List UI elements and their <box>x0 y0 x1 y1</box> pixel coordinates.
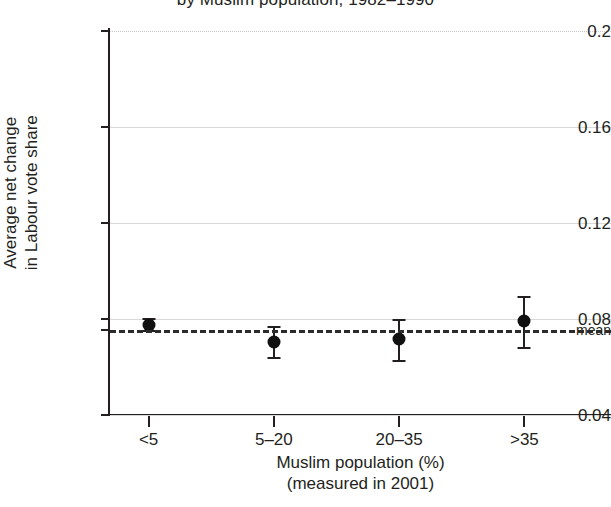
y-tick-label: 0.12 <box>525 215 611 232</box>
chart-figure: by Muslim population, 1982–1990 0.20.160… <box>0 0 611 507</box>
y-axis-title-line2: in Labour vote share <box>22 33 43 353</box>
y-tick-mark <box>101 414 110 416</box>
mean-reference-line <box>110 330 611 333</box>
y-tick-mark <box>101 318 110 320</box>
x-tick-label: 20–35 <box>339 430 459 450</box>
chart-title: by Muslim population, 1982–1990 <box>0 0 611 10</box>
y-tick-label: 0.2 <box>525 23 611 40</box>
x-tick-label: <5 <box>89 430 209 450</box>
error-bar-cap <box>267 357 280 359</box>
x-tick-label: 5–20 <box>214 430 334 450</box>
y-tick-label: 0.16 <box>525 119 611 136</box>
y-tick-mark <box>101 30 110 32</box>
x-tick-mark <box>273 416 275 427</box>
x-tick-mark <box>398 416 400 427</box>
y-tick-mark <box>101 222 110 224</box>
x-axis-title-line2: (measured in 2001) <box>110 473 611 494</box>
data-point <box>393 333 406 346</box>
error-bar-cap <box>393 319 406 321</box>
error-bar-cap <box>393 360 406 362</box>
x-axis-title: Muslim population (%) (measured in 2001) <box>110 452 611 495</box>
error-bar-cap <box>267 326 280 328</box>
x-tick-label: >35 <box>464 430 584 450</box>
error-bar-cap <box>518 347 531 349</box>
x-tick-mark <box>148 416 150 427</box>
y-tick-mark <box>101 126 110 128</box>
mean-tick-mark <box>101 329 110 331</box>
x-tick-mark <box>523 416 525 427</box>
x-axis-title-line1: Muslim population (%) <box>110 452 611 473</box>
y-axis-title-line1: Average net change <box>1 33 22 353</box>
error-bar-cap <box>518 296 531 298</box>
data-point <box>267 335 280 348</box>
y-axis-title: Average net change in Labour vote share <box>1 33 42 353</box>
y-tick-label: 0.04 <box>525 407 611 424</box>
